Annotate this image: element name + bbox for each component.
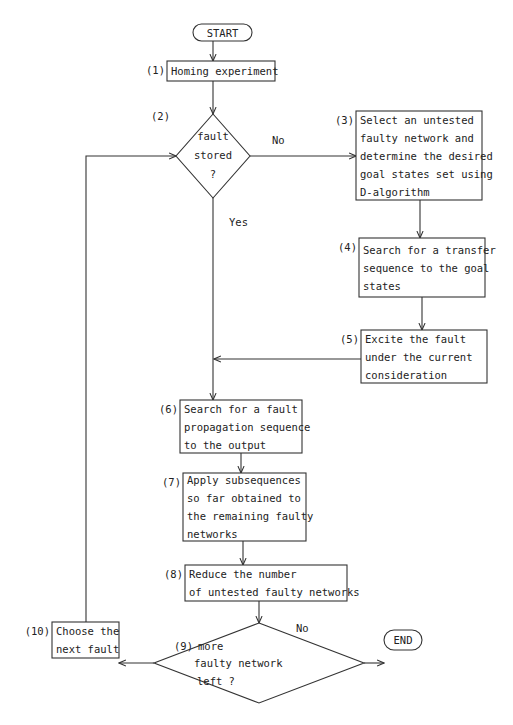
step-number: (5) — [340, 333, 359, 345]
step-number: (10) — [25, 625, 50, 637]
flowchart: STARTEND(1)Homing experiment(2)faultstor… — [0, 0, 513, 725]
step-text-line: sequence to the goal — [363, 262, 489, 274]
step-text-line: Search for a transfer — [363, 244, 496, 256]
step-8: (8)Reduce the numberof untested faulty n… — [164, 565, 360, 601]
step-number: (8) — [164, 568, 183, 580]
edge-10-2 — [86, 156, 176, 622]
start-terminal-label: START — [207, 27, 239, 39]
decision-text-line: left ? — [197, 675, 235, 687]
step-text-line: Choose the — [56, 625, 119, 637]
step-text-line: Search for a fault — [184, 403, 298, 415]
decision-text-line: fault — [197, 130, 229, 142]
start-terminal: START — [193, 24, 252, 41]
step-number: (1) — [146, 64, 165, 76]
step-text-line: the remaining faulty — [187, 510, 313, 522]
step-number: (7) — [162, 476, 181, 488]
edge-label-no: No — [272, 134, 285, 146]
edge-label-no: No — [296, 622, 309, 634]
step-number: (6) — [159, 403, 178, 415]
step-text-line: consideration — [365, 369, 447, 381]
step-text-line: to the output — [184, 439, 266, 451]
step-text-line: so far obtained to — [187, 492, 301, 504]
step-text-line: Reduce the number — [189, 568, 296, 580]
step-text-line: Homing experiment — [171, 65, 278, 77]
end-terminal: END — [384, 630, 422, 650]
step-5: (5)Excite the faultunder the currentcons… — [340, 330, 487, 383]
step-text-line: goal states set using — [360, 168, 493, 180]
nodes: STARTEND(1)Homing experiment(2)faultstor… — [25, 24, 496, 703]
step-7: (7)Apply subsequencesso far obtained tot… — [162, 473, 313, 541]
step-4: (4)Search for a transfersequence to the … — [338, 238, 496, 297]
step-text-line: Apply subsequences — [187, 474, 301, 486]
step-text-line: determine the desired — [360, 150, 493, 162]
end-terminal-label: END — [394, 634, 413, 646]
step-text-line: next fault — [56, 643, 119, 655]
step-10: (10)Choose thenext fault — [25, 622, 120, 658]
step-1: (1)Homing experiment — [146, 61, 278, 81]
step-text-line: networks — [187, 528, 238, 540]
step-text-line: under the current — [365, 351, 472, 363]
step-text-line: faulty network and — [360, 132, 474, 144]
step-9: (9)morefaulty networkleft ? — [154, 623, 364, 703]
step-number: (9) — [174, 640, 193, 652]
edge-label-yes: Yes — [229, 216, 248, 228]
decision-text-line: stored — [194, 149, 232, 161]
step-text-line: of untested faulty networks — [189, 586, 360, 598]
decision-text-line: ? — [210, 168, 216, 180]
decision-text-line: more — [198, 640, 223, 652]
step-number: (2) — [151, 110, 170, 122]
step-text-line: Excite the fault — [365, 333, 466, 345]
decision-text-line: faulty network — [194, 657, 283, 669]
step-text-line: states — [363, 280, 401, 292]
step-text-line: propagation sequence — [184, 421, 310, 433]
edge-labels: NoYesNo — [229, 134, 309, 634]
step-number: (3) — [335, 114, 354, 126]
step-number: (4) — [338, 241, 357, 253]
step-6: (6)Search for a faultpropagation sequenc… — [159, 400, 310, 453]
step-text-line: D-algorithm — [360, 186, 430, 198]
step-text-line: Select an untested — [360, 114, 474, 126]
step-2: (2)faultstored? — [151, 110, 250, 198]
step-3: (3)Select an untestedfaulty network andd… — [335, 111, 493, 200]
